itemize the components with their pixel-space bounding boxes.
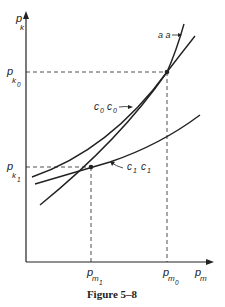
x-axis-sub: m: [200, 274, 207, 283]
aa-curve-label: a a: [158, 30, 171, 40]
curve-c1c1: [35, 115, 200, 184]
pk1-subsub: 1: [17, 176, 21, 183]
y-axis-sub: k: [20, 23, 25, 32]
x-axis-arrow-icon: [206, 259, 214, 265]
c1-sub-b: 1: [147, 167, 151, 174]
figure-caption: Figure 5–8: [87, 288, 138, 300]
y-axis-arrow-icon: [23, 11, 29, 19]
c0-label-a: c: [94, 101, 99, 112]
equilibrium-point-0: [165, 70, 170, 75]
c1-arrowhead-icon: [110, 161, 115, 166]
pm1-sub: m: [92, 274, 99, 283]
c0-sub-b: 0: [113, 107, 117, 114]
c1-label-b: c: [141, 161, 146, 172]
c0-arrowhead-icon: [128, 105, 133, 109]
pm0-subsub: 0: [175, 279, 179, 286]
c0-sub-a: 0: [100, 107, 104, 114]
c1-sub-a: 1: [133, 167, 137, 174]
pk0-subsub: 0: [17, 81, 21, 88]
pm1-subsub: 1: [99, 279, 103, 286]
pm0-sub: m: [168, 274, 175, 283]
c1-label-a: c: [127, 161, 132, 172]
equilibrium-point-1: [89, 165, 94, 170]
curve-aa: [40, 24, 184, 205]
figure-canvas: p k p m p k 0 p k 1 p m 1 p m 0 a a c 0 …: [0, 0, 225, 307]
c0-label-b: c: [107, 101, 112, 112]
